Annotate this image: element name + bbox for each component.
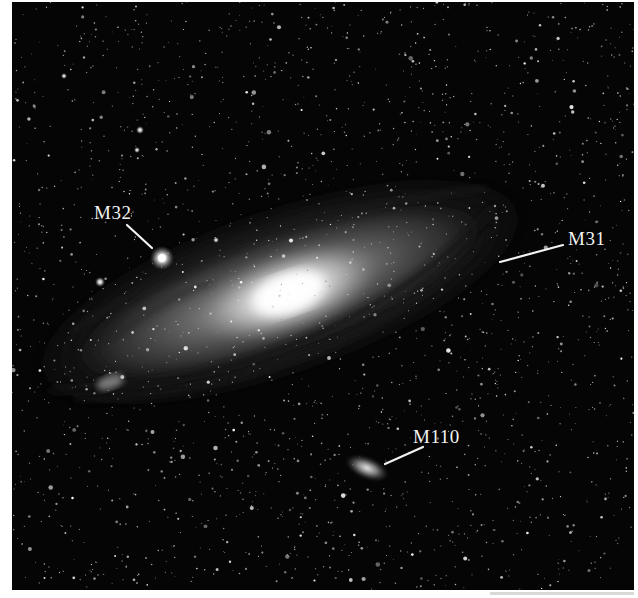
- m31-galaxy: [12, 112, 579, 472]
- bottom-edge-strip: [490, 592, 634, 595]
- andromeda-photo: M32M31M110: [12, 2, 634, 590]
- starfield: [12, 2, 634, 590]
- m110-leader-line: [385, 447, 423, 464]
- m32-leader-line: [127, 225, 152, 248]
- m110-galaxy: [342, 449, 393, 487]
- m31-label: M31: [568, 229, 605, 248]
- m110-label: M110: [413, 427, 460, 446]
- m32-label: M32: [94, 203, 131, 222]
